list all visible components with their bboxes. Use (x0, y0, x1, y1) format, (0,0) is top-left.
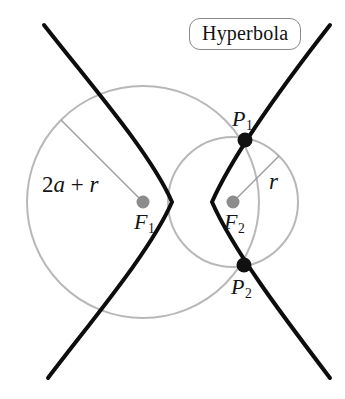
focus-1-dot (137, 196, 150, 209)
hyperbola-left-branch (44, 25, 172, 378)
focus-2-dot (227, 196, 240, 209)
point-p2-dot (237, 258, 252, 273)
point-p1-subscript: 1 (245, 118, 252, 133)
small-radius-label: r (269, 170, 278, 193)
focus-1-label: F1 (134, 211, 155, 236)
point-p2-label: P2 (231, 276, 252, 301)
focus-2-subscript: 2 (237, 221, 244, 236)
focus-1-base: F (134, 209, 147, 234)
hyperbola-figure: Hyperbola 2a + r r F1 F2 P1 P2 (0, 0, 345, 399)
large-radius-operator: + (65, 172, 89, 197)
large-radius-coefficient: 2 (42, 172, 54, 197)
point-p1-base: P (232, 106, 245, 131)
large-radius-var-r: r (89, 172, 98, 197)
figure-title-badge: Hyperbola (189, 18, 301, 50)
hyperbola-diagram-canvas (0, 0, 345, 399)
focus-1-subscript: 1 (147, 221, 154, 236)
point-p2-base: P (231, 274, 244, 299)
large-radius-label: 2a + r (42, 173, 98, 196)
figure-title-text: Hyperbola (202, 22, 288, 44)
large-radius-var-a: a (54, 172, 66, 197)
focus-2-base: F (224, 209, 237, 234)
point-p1-label: P1 (232, 108, 253, 133)
point-p1-dot (238, 133, 253, 148)
point-p2-subscript: 2 (244, 286, 251, 301)
focus-2-label: F2 (224, 211, 245, 236)
